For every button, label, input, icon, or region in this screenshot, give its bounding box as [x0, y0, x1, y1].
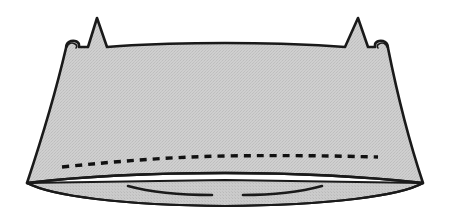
under-panel — [27, 180, 423, 206]
figure-canvas: Gathered fabric panel with tapered side … — [0, 0, 450, 213]
technical-line-drawing — [0, 0, 450, 213]
under-panel-shape — [27, 180, 423, 206]
